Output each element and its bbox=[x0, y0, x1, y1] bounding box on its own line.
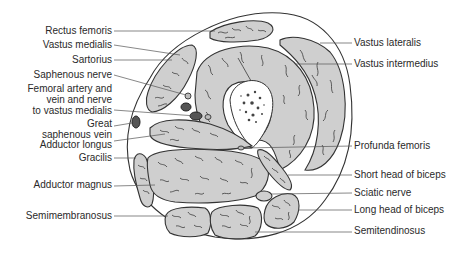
label-rectus-femoris: Rectus femoris bbox=[45, 25, 112, 36]
label-saphenous-nerve: Saphenous nerve bbox=[34, 69, 113, 80]
label-semitendinosus: Semitendinosus bbox=[354, 225, 425, 236]
semimembranosus-muscle bbox=[165, 207, 211, 237]
label-long-head-biceps: Long head of biceps bbox=[354, 204, 444, 215]
nerve-to-vastus-medialis-shape bbox=[205, 115, 211, 120]
label-gracilis: Gracilis bbox=[79, 152, 112, 163]
label-femoral-artery-line1: Femoral artery and bbox=[28, 83, 112, 94]
label-femoral-artery-line2: vein and nerve bbox=[46, 94, 112, 105]
labels-right: Vastus lateralis Vastus intermedius Prof… bbox=[354, 37, 446, 236]
great-saphenous-vein-shape bbox=[132, 116, 140, 128]
thigh-cross-section-diagram: Rectus femoris Vastus medialis Sartorius… bbox=[0, 0, 469, 258]
labels-left: Rectus femoris Vastus medialis Sartorius… bbox=[26, 25, 113, 221]
label-sciatic-nerve: Sciatic nerve bbox=[354, 187, 412, 198]
saphenous-nerve-shape bbox=[185, 93, 191, 99]
adductor-magnus-muscle bbox=[147, 149, 268, 203]
label-femoral-artery-line3: to vastus medialis bbox=[33, 105, 112, 116]
profunda-femoris-shape bbox=[238, 146, 244, 150]
label-adductor-longus: Adductor longus bbox=[40, 139, 112, 150]
label-great-saphenous-line1: Great bbox=[87, 118, 112, 129]
label-vastus-intermedius: Vastus intermedius bbox=[354, 58, 438, 69]
sciatic-nerve-shape bbox=[256, 191, 272, 201]
semitendinosus-muscle bbox=[210, 205, 261, 239]
label-adductor-magnus: Adductor magnus bbox=[34, 179, 112, 190]
label-sartorius: Sartorius bbox=[72, 54, 112, 65]
label-profunda-femoris: Profunda femoris bbox=[354, 140, 430, 151]
label-vastus-medialis: Vastus medialis bbox=[43, 39, 112, 50]
label-vastus-lateralis: Vastus lateralis bbox=[354, 37, 421, 48]
femoral-artery-shape bbox=[181, 103, 191, 111]
label-semimembranosus: Semimembranosus bbox=[26, 210, 112, 221]
label-short-head-biceps: Short head of biceps bbox=[354, 169, 446, 180]
